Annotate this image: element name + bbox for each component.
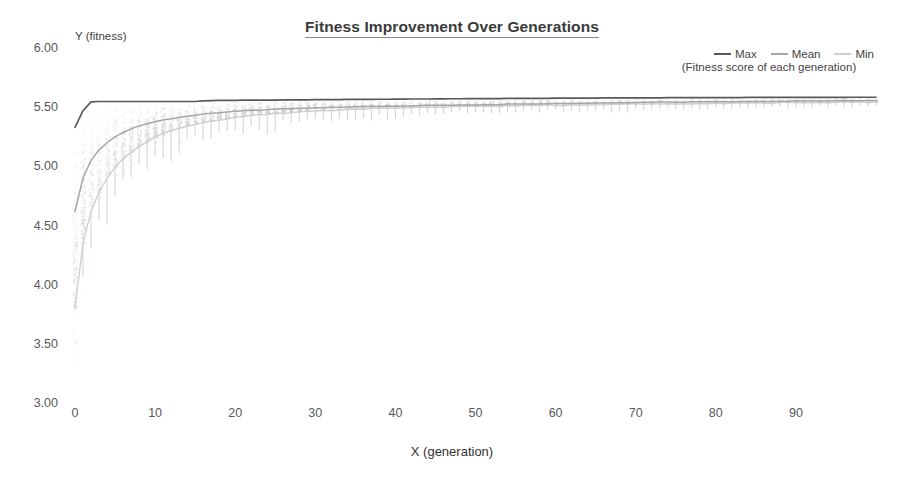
x-tick-label: 30 [308, 406, 322, 420]
series-line-max [75, 97, 876, 127]
legend-label-min: Min [855, 48, 874, 60]
y-tick-label: 4.50 [0, 219, 58, 233]
population-scatter [73, 98, 879, 361]
y-tick-label: 5.50 [0, 100, 58, 114]
chart-title: Fitness Improvement Over Generations [0, 18, 904, 36]
x-tick-label: 60 [549, 406, 563, 420]
legend-line-mean-icon [771, 53, 788, 55]
legend-items: Max Mean Min [646, 48, 896, 60]
y-tick-label: 3.00 [0, 396, 58, 410]
x-tick-label: 20 [228, 406, 242, 420]
fitness-chart: Fitness Improvement Over Generations Max… [0, 0, 904, 486]
legend-line-max-icon [714, 53, 731, 55]
series-line-min [75, 102, 876, 309]
x-tick-label: 70 [629, 406, 643, 420]
generation-spikes [83, 102, 876, 277]
y-tick-label: 3.50 [0, 337, 58, 351]
x-axis-title: X (generation) [0, 444, 904, 459]
y-tick-label: 5.00 [0, 159, 58, 173]
y-axis-title: Y (fitness) [75, 30, 127, 42]
y-tick-label: 4.00 [0, 278, 58, 292]
x-tick-label: 50 [469, 406, 483, 420]
x-tick-label: 0 [72, 406, 79, 420]
legend-subtitle: (Fitness score of each generation) [646, 61, 896, 73]
x-tick-label: 80 [709, 406, 723, 420]
legend-item-max[interactable]: Max [714, 48, 757, 60]
series-line-mean [75, 101, 876, 212]
legend-item-min[interactable]: Min [834, 48, 874, 60]
chart-title-text: Fitness Improvement Over Generations [305, 18, 599, 38]
legend-label-max: Max [735, 48, 757, 60]
x-tick-label: 90 [789, 406, 803, 420]
legend-line-min-icon [834, 53, 851, 55]
legend-item-mean[interactable]: Mean [771, 48, 821, 60]
x-tick-label: 40 [388, 406, 402, 420]
x-tick-label: 10 [148, 406, 162, 420]
chart-legend: Max Mean Min (Fitness score of each gene… [646, 48, 896, 73]
legend-label-mean: Mean [792, 48, 821, 60]
y-tick-label: 6.00 [0, 41, 58, 55]
